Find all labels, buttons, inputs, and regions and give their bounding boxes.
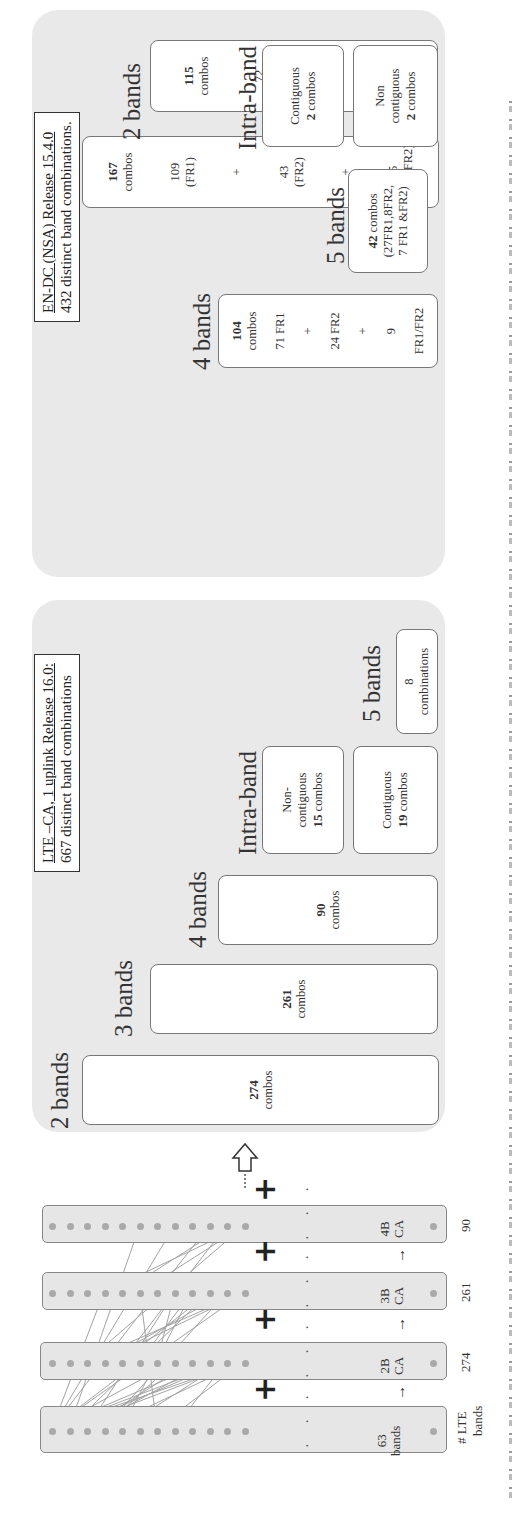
band-dot xyxy=(84,1223,91,1230)
nsa-4b-fr1: 71 FR1 xyxy=(273,312,288,349)
band-dot xyxy=(67,1428,74,1435)
nsa-noncontig-unit: combos xyxy=(404,72,418,111)
band-dot xyxy=(189,1428,196,1435)
lte-heading-2-bands: 2 bands xyxy=(46,1052,74,1129)
lte-box-3-bands: 261 combos xyxy=(150,964,438,1034)
band-dot xyxy=(102,1290,109,1297)
lte-contig-count: 19 xyxy=(395,815,410,828)
nsa-2-bands-count: 115 xyxy=(181,67,196,86)
band-dot xyxy=(224,1428,231,1435)
nsa-heading-intra-band: Intra-band xyxy=(234,46,262,150)
lte-heading-4-bands: 4 bands xyxy=(184,871,212,948)
strip-3b-ca: CA xyxy=(392,1287,406,1305)
lte-noncontig-label1: Non- xyxy=(280,787,295,813)
band-dot xyxy=(207,1223,214,1230)
strip-3b-name: 3B xyxy=(378,1287,392,1305)
lte-ca-title: LTE –CA, 1 uplink Release 16.0: 667 dist… xyxy=(34,654,80,872)
nsa-title: EN-DC (NSA) Release 15.4.0 432 distinct … xyxy=(34,112,80,322)
nsa-3-bands-count: 167 xyxy=(105,162,120,182)
band-dot xyxy=(137,1428,144,1435)
lte-band-count: 63 xyxy=(375,1426,389,1456)
plus-icon: + xyxy=(250,1377,280,1402)
band-dot xyxy=(430,1290,437,1297)
nsa-title-line1: EN-DC (NSA) Release 15.4.0 xyxy=(39,121,57,313)
nsa-noncontig-count: 2 xyxy=(403,114,418,121)
lte-noncontig-count: 15 xyxy=(310,815,325,828)
band-dot xyxy=(137,1360,144,1367)
nsa-3b-fr2-count: 43 xyxy=(277,166,291,179)
nsa-5b-breakdown-2: 7 FR1 &FR2) xyxy=(396,186,411,255)
lte-box-2-bands: 274 combos xyxy=(82,1055,439,1125)
lte-heading-5-bands: 5 bands xyxy=(358,645,386,722)
band-dot xyxy=(154,1360,161,1367)
lte-4-bands-count: 90 xyxy=(313,904,328,917)
band-dot xyxy=(207,1428,214,1435)
band-dot xyxy=(119,1290,126,1297)
nsa-3b-fr2-label: (FR2) xyxy=(292,157,306,187)
nsa-noncontig-label2: contiguous xyxy=(388,69,403,124)
strip-2b-name: 2B xyxy=(378,1357,392,1375)
band-dot xyxy=(49,1290,56,1297)
band-dot xyxy=(242,1290,249,1297)
band-dot xyxy=(49,1360,56,1367)
band-dot xyxy=(119,1428,126,1435)
nsa-3b-fr1-label: (FR1) xyxy=(183,157,197,187)
nsa-4-bands-count: 104 xyxy=(229,321,244,341)
band-dot xyxy=(242,1360,249,1367)
lte-box-5-bands: 8 combinations xyxy=(396,629,438,734)
strip-2b-label: 2B CA xyxy=(378,1357,406,1375)
band-dot xyxy=(224,1360,231,1367)
lte-5-bands-unit: combinations xyxy=(417,648,432,715)
nsa-4b-mixed-count: 9 xyxy=(384,328,399,334)
axis-label-line1: # LTE xyxy=(454,1406,470,1450)
band-dot xyxy=(224,1223,231,1230)
band-dot xyxy=(172,1223,179,1230)
axis-label-line2: bands xyxy=(470,1406,486,1450)
arrow-icon: → xyxy=(392,1385,409,1400)
band-dot xyxy=(430,1223,437,1230)
band-dot xyxy=(207,1360,214,1367)
nsa-contig-unit: combos xyxy=(304,72,318,111)
nsa-heading-2-bands: 2 bands xyxy=(118,63,146,140)
band-dot xyxy=(102,1428,109,1435)
band-dot xyxy=(430,1360,437,1367)
band-dot xyxy=(67,1360,74,1367)
lte-contig-unit: combos xyxy=(396,773,410,812)
lte-noncontig-label2: contiguous xyxy=(295,773,310,828)
band-dot xyxy=(102,1223,109,1230)
band-dot xyxy=(172,1428,179,1435)
nsa-contig-count: 2 xyxy=(303,114,318,121)
band-dot xyxy=(119,1360,126,1367)
arrow-icon: → xyxy=(392,1248,409,1263)
band-dot xyxy=(84,1428,91,1435)
nsa-heading-5-bands: 5 bands xyxy=(322,187,350,264)
plus-text: + xyxy=(356,327,371,334)
nsa-5b-breakdown-1: (27FR1,8FR2, xyxy=(381,185,396,257)
band-dot xyxy=(430,1428,437,1435)
band-dot xyxy=(119,1223,126,1230)
band-dot xyxy=(242,1223,249,1230)
lte-heading-3-bands: 3 bands xyxy=(110,960,138,1037)
nsa-contig-label: Contiguous xyxy=(288,67,303,125)
nsa-box-non-contiguous: Non contiguous 2 combos xyxy=(353,45,438,147)
lte-3-bands-unit: combos xyxy=(294,980,309,1019)
figure-caption-cutoff xyxy=(508,38,524,1498)
lte-2-bands-count: 274 xyxy=(246,1080,261,1100)
nsa-heading-4-bands: 4 bands xyxy=(188,293,216,370)
strip-3b-label: 3B CA xyxy=(378,1287,406,1305)
band-dot xyxy=(154,1290,161,1297)
nsa-5-bands-unit: combos xyxy=(366,194,380,233)
figure-stage: 63 bands 2B CA 3B CA 4B CA · · · · · · ·… xyxy=(0,0,524,1518)
lte-3-bands-count: 261 xyxy=(279,989,294,1009)
strip-3b-ellipsis: · · · xyxy=(300,1247,316,1308)
nsa-box-contiguous: Contiguous 2 combos xyxy=(262,45,344,147)
band-dot xyxy=(84,1360,91,1367)
strip-2b-ca: CA xyxy=(392,1357,406,1375)
nsa-2-bands-unit: combos xyxy=(197,57,211,96)
lte-5-bands-count: 8 xyxy=(402,678,417,684)
nsa-4-bands-unit: combos xyxy=(245,312,259,351)
nsa-noncontig-label1: Non xyxy=(373,85,388,107)
band-dot xyxy=(172,1360,179,1367)
band-dot xyxy=(49,1428,56,1435)
band-dot xyxy=(224,1290,231,1297)
